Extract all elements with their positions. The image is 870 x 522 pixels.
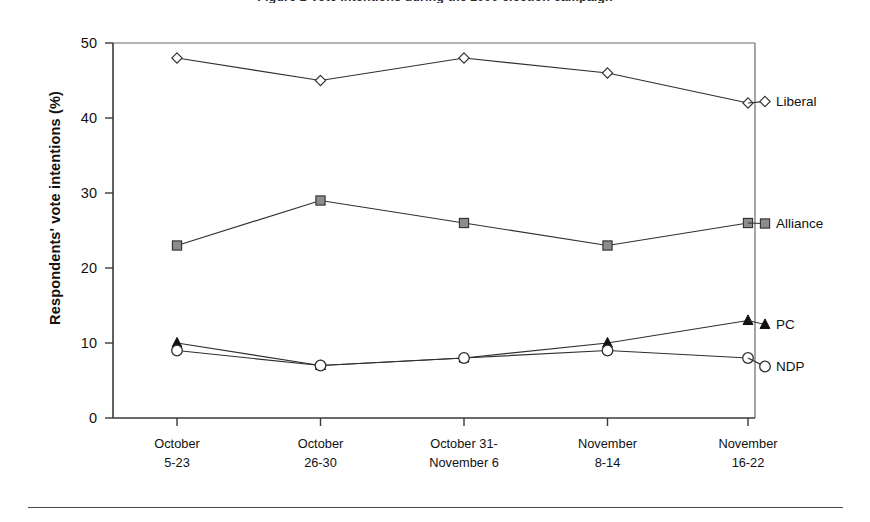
marker-circle xyxy=(315,360,326,371)
x-tick-label: 8-14 xyxy=(595,455,621,470)
marker-diamond xyxy=(760,96,770,106)
series-alliance xyxy=(172,196,752,250)
x-axis-ticks xyxy=(177,418,748,426)
marker-circle xyxy=(760,361,771,372)
footer-divider xyxy=(28,507,843,508)
series-liberal xyxy=(172,53,753,108)
x-tick-label: 5-23 xyxy=(164,455,190,470)
y-tick-label: 0 xyxy=(89,410,97,426)
series-label-liberal: Liberal xyxy=(776,94,817,109)
marker-diamond xyxy=(602,68,612,78)
figure-container: Figure 1 Vote intentions during the 2000… xyxy=(0,0,870,522)
marker-circle xyxy=(172,345,183,356)
marker-square xyxy=(316,196,325,205)
series-label-layer: LiberalAlliancePCNDP xyxy=(748,94,823,374)
x-tick-label: October 31- xyxy=(430,436,498,451)
y-tick-label: 30 xyxy=(81,185,97,201)
marker-square xyxy=(459,218,468,227)
x-tick-label: November xyxy=(718,436,778,451)
marker-diamond xyxy=(459,53,469,63)
x-tick-label: November xyxy=(578,436,638,451)
y-axis-tick-labels: 50 40 30 20 10 0 xyxy=(81,35,97,426)
y-tick-label: 10 xyxy=(81,335,97,351)
series-label-alliance: Alliance xyxy=(776,216,823,231)
y-tick-label: 50 xyxy=(81,35,97,51)
x-axis-tick-labels: October5-23October26-30October 31-Novemb… xyxy=(154,436,778,470)
marker-diamond xyxy=(172,53,182,63)
marker-square xyxy=(172,241,181,250)
y-tick-label: 20 xyxy=(81,260,97,276)
x-tick-label: 16-22 xyxy=(732,455,765,470)
x-tick-label: October xyxy=(298,436,344,451)
series-ndp xyxy=(172,345,754,371)
marker-square xyxy=(603,241,612,250)
marker-circle xyxy=(459,353,470,364)
data-series-layer xyxy=(172,53,754,371)
marker-triangle xyxy=(743,315,753,325)
marker-circle xyxy=(602,345,613,356)
x-tick-label: 26-30 xyxy=(304,455,337,470)
x-tick-label: October xyxy=(154,436,200,451)
y-axis-ticks xyxy=(105,43,113,418)
line-chart: 50 40 30 20 10 0 October5-23October26-30… xyxy=(0,0,870,500)
series-label-pc: PC xyxy=(776,317,795,332)
y-tick-label: 40 xyxy=(81,110,97,126)
marker-square xyxy=(760,219,769,228)
series-line xyxy=(177,58,748,103)
x-tick-label: November 6 xyxy=(429,455,499,470)
marker-diamond xyxy=(315,75,325,85)
series-label-ndp: NDP xyxy=(776,359,805,374)
